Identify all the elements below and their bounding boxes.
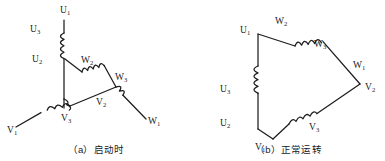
label-v2: V2 xyxy=(96,97,106,108)
w-phase-coil-lower xyxy=(116,86,124,95)
u-phase-coil xyxy=(254,66,258,93)
label-u2: U2 xyxy=(220,118,230,129)
w1-lead-wire xyxy=(123,95,146,119)
caption-panel-b: （b）正常运转 xyxy=(192,142,385,156)
u1-to-w3-wire xyxy=(258,34,295,46)
v1-to-v3-wire xyxy=(273,124,289,139)
v1-lead-wire xyxy=(16,113,41,127)
w-phase-side xyxy=(258,34,360,84)
label-w2: W2 xyxy=(81,55,93,66)
v-node-lead-wire xyxy=(70,87,116,106)
u-phase-side xyxy=(254,34,258,129)
delta-connection-diagram: U1 W2 W3 W1 V2 U3 U2 V1 V3 xyxy=(192,0,385,161)
caption-panel-a: （a）启动时 xyxy=(0,142,192,156)
u-phase-branch xyxy=(61,20,65,99)
w-phase-branch xyxy=(65,59,146,119)
star-centre-coil xyxy=(64,99,71,110)
w-tap-lead-wire xyxy=(65,59,82,72)
label-u1: U1 xyxy=(240,25,250,36)
star-connection-diagram: U1 U3 U2 W2 W3 V2 V3 V1 W1 xyxy=(0,0,192,161)
u-phase-coil xyxy=(61,33,65,59)
label-u3: U3 xyxy=(220,84,231,95)
label-u1: U1 xyxy=(60,5,70,16)
label-u2: U2 xyxy=(32,54,42,65)
label-w2: W2 xyxy=(275,16,287,27)
label-v2: V2 xyxy=(365,82,375,93)
label-w3: W3 xyxy=(314,39,327,50)
label-u3: U3 xyxy=(30,24,41,35)
figure-root: U1 U3 U2 W2 W3 V2 V3 V1 W1 U1 xyxy=(0,0,385,161)
label-w1: W1 xyxy=(353,60,365,71)
label-v3: V3 xyxy=(61,113,72,124)
v3-to-v2-wire xyxy=(317,84,360,114)
label-w1: W1 xyxy=(148,116,160,127)
label-w3: W3 xyxy=(115,72,128,83)
label-v3: V3 xyxy=(309,122,320,133)
u2-to-v1-wire xyxy=(258,129,273,139)
